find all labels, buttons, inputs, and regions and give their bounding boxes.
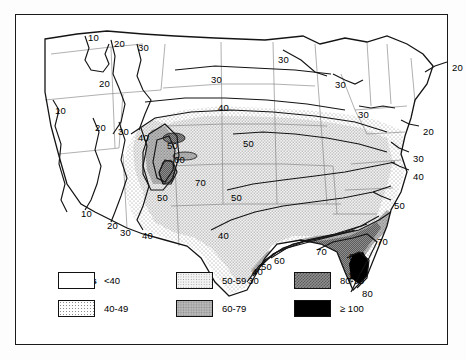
contour-label: 50 (157, 192, 168, 203)
contour-label: 20 (99, 78, 110, 89)
legend-entry: 50-59 (176, 272, 246, 289)
legend-label: 80-99 (340, 275, 364, 286)
us-contour-map (15, 14, 448, 345)
contour-label: 30 (278, 54, 289, 65)
legend-entry: 60-79 (176, 300, 246, 317)
legend-entry: <40 (58, 272, 120, 289)
legend-entry: 80-99 (294, 272, 364, 289)
legend-entry: ≥ 100 (294, 300, 364, 317)
legend-swatch-dark-check (294, 272, 331, 289)
legend-entry: 40-49 (58, 300, 128, 317)
contour-label: 70 (377, 236, 388, 247)
contour-label: 30 (358, 109, 369, 120)
contour-label: 50 (167, 140, 178, 151)
contour-label: 30 (335, 79, 346, 90)
contour-label: 20 (452, 62, 463, 73)
contour-label: 50 (243, 138, 254, 149)
legend-swatch-white (58, 272, 95, 289)
legend-label: 40-49 (104, 303, 128, 314)
contour-label: 30 (413, 153, 424, 164)
legend-swatch-black (294, 300, 331, 317)
contour-label: 30 (211, 74, 222, 85)
contour-label: 70 (195, 177, 206, 188)
legend-label: <40 (104, 275, 120, 286)
legend-swatch-light-gray (176, 272, 213, 289)
contour-label: 80 (349, 251, 360, 262)
contour-label: 20 (114, 38, 125, 49)
contour-label: 80 (362, 288, 373, 299)
contour-label: 60 (174, 154, 185, 165)
contour-label: 10 (55, 105, 66, 116)
contour-label: 60 (274, 255, 285, 266)
contour-label: 40 (138, 132, 149, 143)
legend-swatch-fine-stipple (58, 300, 95, 317)
contour-label: 30 (138, 42, 149, 53)
contour-label: 70 (316, 246, 327, 257)
contour-label: 30 (120, 227, 131, 238)
map-area: 1020302010203040304050607050505030303020… (15, 14, 448, 345)
contour-label: 30 (118, 126, 129, 137)
legend-label: 50-59 (222, 275, 246, 286)
figure-canvas: 1020302010203040304050607050505030303020… (0, 0, 466, 360)
legend-swatch-mid-gray (176, 300, 213, 317)
contour-label: 40 (413, 171, 424, 182)
contour-label: 20 (423, 126, 434, 137)
legend-label: ≥ 100 (340, 303, 364, 314)
contour-label: 40 (218, 102, 229, 113)
contour-label: 20 (95, 122, 106, 133)
contour-label: 40 (218, 230, 229, 241)
contour-label: 10 (88, 32, 99, 43)
contour-label: 10 (81, 208, 92, 219)
contour-label: 20 (107, 220, 118, 231)
contour-label: 50 (231, 192, 242, 203)
contour-label: 50 (394, 200, 405, 211)
legend-label: 60-79 (222, 303, 246, 314)
contour-label: 40 (142, 230, 153, 241)
contour-label: 50 (261, 261, 272, 272)
